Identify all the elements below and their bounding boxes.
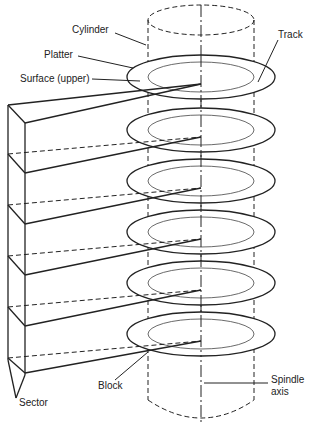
label-sector: Sector — [19, 397, 49, 408]
label-axis: axis — [271, 386, 289, 397]
label-cylinder: Cylinder — [72, 24, 109, 35]
label-block: Block — [98, 380, 123, 391]
label-surface: Surface (upper) — [20, 73, 89, 84]
disk-diagram: Cylinder Platter Surface (upper) Track B… — [0, 0, 309, 426]
label-spindle: Spindle — [271, 374, 305, 385]
platters — [127, 55, 275, 356]
label-platter: Platter — [44, 49, 74, 60]
label-track: Track — [278, 29, 304, 40]
